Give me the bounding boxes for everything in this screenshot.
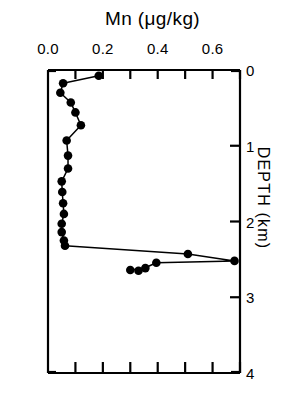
data-point <box>184 250 193 259</box>
data-point <box>230 257 239 266</box>
x-tick-marks <box>75 70 240 373</box>
depth-tick-label: 1 <box>246 137 254 154</box>
data-point <box>77 121 86 130</box>
data-point <box>58 188 67 197</box>
depth-tick-label: 0 <box>246 62 254 79</box>
data-point <box>94 71 103 80</box>
data-point <box>57 219 66 228</box>
data-point <box>141 264 150 273</box>
x-tick-label: 0.4 <box>147 40 168 57</box>
data-point <box>66 98 75 107</box>
data-point <box>56 88 65 97</box>
depth-tick-label: 2 <box>246 213 254 230</box>
data-point <box>64 164 73 173</box>
data-point <box>71 108 80 117</box>
depth-tick-label: 3 <box>246 289 254 306</box>
depth-axis-label: DEPTH (km) <box>254 147 272 250</box>
data-point <box>59 199 68 208</box>
data-line <box>60 76 234 271</box>
data-point <box>59 79 68 88</box>
data-point <box>64 151 73 160</box>
data-point <box>57 177 66 186</box>
data-point <box>61 241 70 250</box>
data-point <box>57 228 66 237</box>
x-tick-label: 0.0 <box>37 40 58 57</box>
data-point <box>60 210 69 219</box>
data-point <box>62 136 71 145</box>
data-points <box>56 71 239 275</box>
data-point <box>152 258 161 267</box>
x-tick-label: 0.6 <box>202 40 223 57</box>
mn-depth-profile-figure: Mn (μg/kg) DEPTH (km) 0.00.20.40.601234 <box>0 0 305 397</box>
data-point <box>126 266 135 275</box>
x-tick-label: 0.2 <box>92 40 113 57</box>
depth-tick-label: 4 <box>246 365 254 382</box>
